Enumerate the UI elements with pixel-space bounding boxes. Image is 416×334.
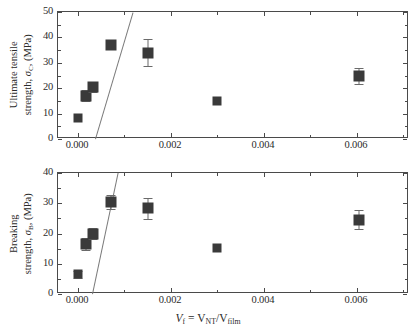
x-axis-title-v: V — [176, 312, 183, 324]
y-minor-tick — [58, 279, 61, 280]
data-point — [106, 197, 117, 208]
y-tick-label: 0 — [48, 133, 53, 144]
data-point — [88, 228, 99, 239]
error-bar-cap — [82, 250, 91, 251]
x-major-tick — [78, 288, 79, 292]
x-major-tick — [171, 173, 172, 177]
x-tick-label: 0.006 — [345, 140, 368, 151]
data-point — [106, 39, 117, 50]
data-point — [142, 203, 153, 214]
data-point — [81, 239, 92, 250]
x-axis-title-sub-film: film — [227, 317, 240, 326]
x-major-tick — [357, 173, 358, 177]
x-tick-label: 0.000 — [66, 295, 89, 306]
sigma-subscript-top: C — [27, 66, 35, 71]
x-major-tick — [357, 288, 358, 292]
y-tick-label: 30 — [43, 197, 53, 208]
y-minor-tick — [58, 218, 61, 219]
y-major-tick — [403, 139, 407, 140]
y-axis-title-top-prefix: strength, — [22, 76, 33, 115]
x-axis-title-sub-nt: NT — [206, 317, 216, 326]
x-minor-tick — [403, 12, 404, 15]
y-minor-tick — [58, 50, 61, 51]
x-minor-tick — [124, 12, 125, 15]
x-minor-tick — [217, 135, 218, 138]
error-bar-cap — [89, 239, 98, 240]
x-minor-tick — [217, 290, 218, 293]
x-minor-tick — [310, 135, 311, 138]
x-minor-tick — [310, 173, 311, 176]
x-minor-tick — [124, 173, 125, 176]
sigma-symbol-bottom: σ — [22, 230, 33, 235]
y-minor-tick — [405, 76, 408, 77]
fit-line — [95, 12, 134, 139]
y-tick-label: 10 — [43, 258, 53, 269]
error-bar-cap — [143, 219, 152, 220]
x-minor-tick — [403, 173, 404, 176]
x-major-tick — [357, 133, 358, 137]
data-point — [73, 114, 82, 123]
y-tick-label: 40 — [43, 167, 53, 178]
x-minor-tick — [310, 290, 311, 293]
error-bar-cap — [143, 198, 152, 199]
y-minor-tick — [58, 101, 61, 102]
x-axis-title: Vf = VNT/Vfilm — [0, 313, 416, 326]
y-axis-title-bottom-suffix: , (MPa) — [22, 193, 33, 225]
x-major-tick — [264, 133, 265, 137]
data-point — [73, 270, 82, 279]
y-minor-tick — [405, 188, 408, 189]
y-tick-label: 30 — [43, 57, 53, 68]
y-major-tick — [58, 234, 62, 235]
plot-area-top — [58, 12, 407, 137]
y-major-tick — [58, 173, 62, 174]
y-major-tick — [403, 203, 407, 204]
y-tick-label: 20 — [43, 227, 53, 238]
error-bar-cap — [355, 84, 364, 85]
x-tick-label: 0.004 — [252, 140, 275, 151]
x-minor-tick — [217, 12, 218, 15]
x-major-tick — [264, 288, 265, 292]
y-major-tick — [403, 88, 407, 89]
chart-panel-bottom: Breaking strength, σB, (MPa) 010203040 0… — [0, 165, 416, 334]
x-major-tick — [78, 173, 79, 177]
x-major-tick — [264, 12, 265, 16]
y-major-tick — [403, 37, 407, 38]
y-tick-label: 20 — [43, 82, 53, 93]
y-minor-tick — [405, 50, 408, 51]
y-major-tick — [403, 294, 407, 295]
y-tick-label: 0 — [48, 288, 53, 299]
y-major-tick — [58, 264, 62, 265]
figure: Ultimate tensile strength, σC, (MPa) 010… — [0, 0, 416, 334]
y-minor-tick — [405, 279, 408, 280]
error-bar-cap — [143, 39, 152, 40]
plot-area-bottom — [58, 173, 407, 292]
y-minor-tick — [405, 126, 408, 127]
data-point — [354, 214, 365, 225]
chart-panel-top: Ultimate tensile strength, σC, (MPa) 010… — [0, 0, 416, 165]
x-tick-label: 0.002 — [159, 295, 182, 306]
y-axis-title-bottom-prefix: strength, — [22, 235, 33, 274]
y-major-tick — [58, 114, 62, 115]
x-axis-title-slash: /V — [216, 312, 228, 324]
y-major-tick — [58, 63, 62, 64]
y-tick-label: 10 — [43, 107, 53, 118]
y-minor-tick — [405, 249, 408, 250]
x-minor-tick — [310, 12, 311, 15]
y-minor-tick — [58, 25, 61, 26]
x-tick-label: 0.004 — [252, 295, 275, 306]
y-minor-tick — [58, 126, 61, 127]
y-minor-tick — [405, 25, 408, 26]
x-minor-tick — [124, 135, 125, 138]
x-minor-tick — [403, 290, 404, 293]
y-minor-tick — [405, 218, 408, 219]
error-bar-cap — [355, 68, 364, 69]
sigma-symbol-top: σ — [22, 71, 33, 76]
y-minor-tick — [405, 101, 408, 102]
data-point — [88, 82, 99, 93]
error-bar-cap — [107, 209, 116, 210]
y-axis-title-top: Ultimate tensile strength, σC, (MPa) — [7, 15, 37, 135]
y-minor-tick — [58, 249, 61, 250]
error-bar-cap — [355, 210, 364, 211]
y-major-tick — [403, 234, 407, 235]
y-axis-title-top-line1: Ultimate tensile — [7, 15, 21, 135]
